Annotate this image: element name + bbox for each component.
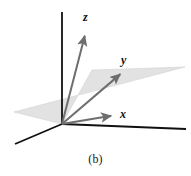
lower-left-axis (15, 124, 62, 144)
axis-label-x: x (120, 108, 126, 120)
shaded-plane (14, 67, 185, 124)
coordinate-system-graphic (0, 0, 191, 176)
figure-container: z y x (b) (0, 0, 191, 176)
right-horizontal-axis (62, 124, 186, 129)
vector-z-arrow (62, 36, 85, 124)
axis-label-z: z (83, 11, 88, 23)
figure-caption: (b) (0, 152, 191, 167)
axis-label-y: y (121, 54, 126, 66)
